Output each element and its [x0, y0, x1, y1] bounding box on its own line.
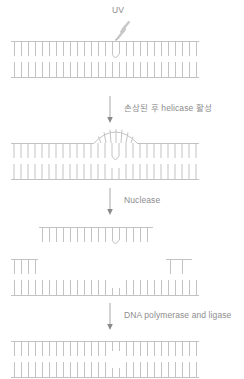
thymine-dimer-lesion [112, 143, 119, 160]
thymine-dimer-lesion [112, 227, 119, 244]
rungs-top [14, 41, 196, 56]
rungs-top-left [14, 259, 35, 274]
helicase-bubble-arc [94, 129, 137, 143]
arrow-to-nuclease [104, 188, 116, 216]
stage-repaired-duplex [10, 340, 200, 378]
rungs [42, 227, 147, 242]
thymine-dimer-lesion [112, 41, 119, 58]
rungs-top [14, 143, 196, 158]
uv-lightning-bolt-icon [108, 20, 136, 42]
arrow-to-repair [104, 303, 116, 331]
stage-excised-fragment [38, 226, 154, 250]
rungs-bottom [14, 280, 196, 295]
step-label-nuclease: Nuclease [124, 196, 160, 205]
rungs-bottom [14, 362, 196, 377]
step-label-polymerase-ligase: DNA polymerase and ligase [124, 311, 231, 320]
rungs-bottom [14, 62, 196, 77]
uv-label: UV [112, 6, 124, 15]
stage-damaged-duplex [10, 40, 200, 78]
stage-gapped-duplex [10, 258, 200, 296]
nucleotide-excision-repair-diagram: UV [0, 0, 244, 379]
rungs-bottom [14, 164, 196, 179]
rungs-top [14, 341, 196, 356]
arrow-to-helicase [104, 96, 116, 124]
stage-helicase-bubble-duplex [10, 130, 200, 180]
step-label-helicase: 손상된 후 helicase 활성 [124, 104, 212, 113]
rungs-top-right [170, 259, 182, 274]
